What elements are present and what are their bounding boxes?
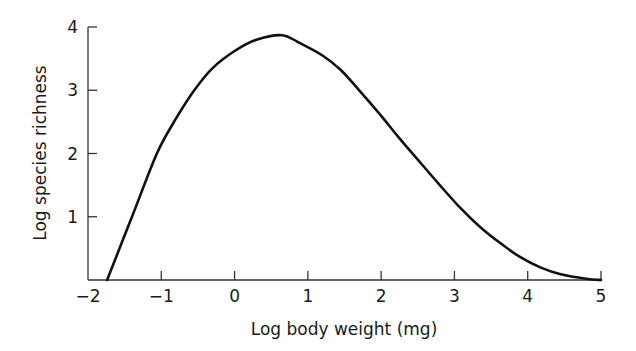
- y-tick-label: 2: [67, 144, 78, 164]
- chart: −2−10123451234 Log body weight (mg) Log …: [0, 0, 636, 351]
- x-tick-label: −2: [75, 286, 100, 306]
- y-axis-title: Log species richness: [30, 65, 50, 241]
- x-tick-label: 0: [229, 286, 240, 306]
- axes: [88, 27, 601, 280]
- data-line: [107, 35, 601, 280]
- x-axis-title: Log body weight (mg): [251, 319, 438, 339]
- x-tick-label: 2: [376, 286, 387, 306]
- y-tick-label: 4: [67, 17, 78, 37]
- x-tick-label: −1: [149, 286, 174, 306]
- x-tick-label: 4: [522, 286, 533, 306]
- x-tick-label: 3: [449, 286, 460, 306]
- ticks: [88, 27, 601, 280]
- y-tick-label: 1: [67, 207, 78, 227]
- tick-labels: −2−10123451234: [67, 17, 606, 306]
- y-tick-label: 3: [67, 80, 78, 100]
- x-tick-label: 1: [302, 286, 313, 306]
- x-tick-label: 5: [596, 286, 607, 306]
